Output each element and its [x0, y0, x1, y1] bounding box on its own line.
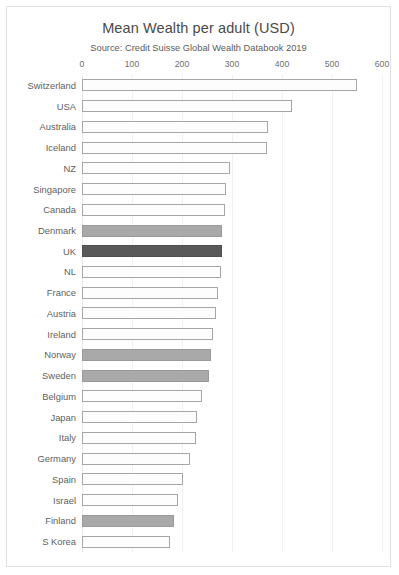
- bar[interactable]: [82, 245, 222, 257]
- bar-row: UK: [7, 241, 390, 262]
- bar-track: [82, 75, 390, 96]
- bar[interactable]: [82, 307, 216, 319]
- x-tick-label: 500: [325, 59, 339, 69]
- bar-row: Denmark: [7, 220, 390, 241]
- bar-row: Belgium: [7, 386, 390, 407]
- bar-row: Ireland: [7, 324, 390, 345]
- bar[interactable]: [82, 328, 213, 340]
- category-label: Norway: [7, 349, 82, 360]
- bar-row: Austria: [7, 303, 390, 324]
- category-label: Spain: [7, 474, 82, 485]
- bar[interactable]: [82, 515, 174, 527]
- category-label: S Korea: [7, 536, 82, 547]
- bar-row: Switzerland: [7, 75, 390, 96]
- category-label: Finland: [7, 515, 82, 526]
- category-label: Iceland: [7, 142, 82, 153]
- bar[interactable]: [82, 411, 197, 423]
- bar[interactable]: [82, 453, 190, 465]
- category-label: Italy: [7, 432, 82, 443]
- bar[interactable]: [82, 390, 202, 402]
- bar-track: [82, 490, 390, 511]
- bar-row: Norway: [7, 345, 390, 366]
- bar-track: [82, 365, 390, 386]
- category-label: Denmark: [7, 225, 82, 236]
- bar-row: Israel: [7, 490, 390, 511]
- bar-track: [82, 427, 390, 448]
- bar[interactable]: [82, 121, 268, 133]
- bar-row: NL: [7, 262, 390, 283]
- category-label: Sweden: [7, 370, 82, 381]
- bar-row: Italy: [7, 427, 390, 448]
- plot-area: 0100200300400500600 SwitzerlandUSAAustra…: [7, 59, 390, 552]
- category-label: NL: [7, 266, 82, 277]
- bar-track: [82, 96, 390, 117]
- bar-track: [82, 469, 390, 490]
- bar-row: USA: [7, 96, 390, 117]
- bar-row: NZ: [7, 158, 390, 179]
- bar-track: [82, 137, 390, 158]
- category-label: Canada: [7, 204, 82, 215]
- bar-row: Finland: [7, 510, 390, 531]
- bar-row: Canada: [7, 199, 390, 220]
- bar-row: France: [7, 282, 390, 303]
- bar[interactable]: [82, 494, 178, 506]
- bar[interactable]: [82, 183, 226, 195]
- bar[interactable]: [82, 79, 357, 91]
- bar-row: Singapore: [7, 179, 390, 200]
- bar[interactable]: [82, 142, 267, 154]
- x-tick-label: 0: [80, 59, 85, 69]
- bar-track: [82, 324, 390, 345]
- x-tick-label: 300: [225, 59, 239, 69]
- category-label: Israel: [7, 495, 82, 506]
- category-label: Germany: [7, 453, 82, 464]
- x-tick-label: 400: [275, 59, 289, 69]
- bar-track: [82, 303, 390, 324]
- bar[interactable]: [82, 287, 218, 299]
- x-axis: 0100200300400500600: [7, 59, 390, 75]
- chart-subtitle: Source: Credit Suisse Global Wealth Data…: [7, 43, 390, 53]
- chart-frame: Mean Wealth per adult (USD) Source: Cred…: [6, 6, 391, 567]
- bar-row: Australia: [7, 116, 390, 137]
- category-label: France: [7, 287, 82, 298]
- x-tick-label: 100: [125, 59, 139, 69]
- bar-track: [82, 510, 390, 531]
- category-label: Singapore: [7, 184, 82, 195]
- category-label: Austria: [7, 308, 82, 319]
- category-label: USA: [7, 101, 82, 112]
- bar-track: [82, 531, 390, 552]
- bar-track: [82, 282, 390, 303]
- bar[interactable]: [82, 266, 221, 278]
- chart-title: Mean Wealth per adult (USD): [7, 20, 390, 36]
- bar-track: [82, 179, 390, 200]
- bar[interactable]: [82, 370, 209, 382]
- bar-row: Spain: [7, 469, 390, 490]
- bar[interactable]: [82, 162, 230, 174]
- bar-track: [82, 199, 390, 220]
- category-label: Switzerland: [7, 80, 82, 91]
- bar-track: [82, 116, 390, 137]
- bar[interactable]: [82, 100, 292, 112]
- x-tick-label: 200: [175, 59, 189, 69]
- bar-track: [82, 407, 390, 428]
- bar-track: [82, 448, 390, 469]
- bar-track: [82, 241, 390, 262]
- bar-track: [82, 158, 390, 179]
- bar-row: S Korea: [7, 531, 390, 552]
- category-label: Japan: [7, 412, 82, 423]
- category-label: Belgium: [7, 391, 82, 402]
- bar[interactable]: [82, 225, 222, 237]
- bar-track: [82, 386, 390, 407]
- bar[interactable]: [82, 473, 183, 485]
- category-label: UK: [7, 246, 82, 257]
- bar[interactable]: [82, 204, 225, 216]
- category-label: NZ: [7, 163, 82, 174]
- category-label: Ireland: [7, 329, 82, 340]
- bar-track: [82, 220, 390, 241]
- bar-rows: SwitzerlandUSAAustraliaIcelandNZSingapor…: [7, 75, 390, 552]
- bar[interactable]: [82, 432, 196, 444]
- bar-track: [82, 262, 390, 283]
- bar[interactable]: [82, 349, 211, 361]
- bar[interactable]: [82, 536, 170, 548]
- bar-row: Sweden: [7, 365, 390, 386]
- bar-row: Germany: [7, 448, 390, 469]
